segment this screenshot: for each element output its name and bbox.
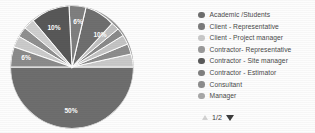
legend-item-manager[interactable]: Manager — [197, 90, 315, 102]
legend-pager: 1/2 — [202, 112, 234, 123]
legend-swatch-icon — [198, 35, 205, 42]
legend-item-client-representative[interactable]: Client - Representative — [197, 21, 315, 33]
legend-item-label: Client - Representative — [210, 21, 279, 33]
pie-label-academic-students: 50% — [64, 107, 77, 114]
legend-item-label: Contractor- Representative — [210, 44, 292, 56]
legend-item-label: Academic /Students — [210, 9, 271, 21]
pie-chart-svg: 10% 6% 10% 6% 50% — [8, 3, 138, 131]
legend-item-contractor-estimator[interactable]: Contractor - Estimator — [197, 67, 315, 79]
legend-swatch-icon — [198, 23, 205, 30]
pie-chart[interactable]: 10% 6% 10% 6% 50% — [8, 3, 138, 131]
legend-swatch-icon — [198, 93, 205, 100]
page-indicator: 1/2 — [212, 113, 222, 123]
legend-swatch-icon — [198, 58, 205, 65]
legend-item-consultant[interactable]: Consultant — [197, 79, 315, 91]
legend-swatch-icon — [198, 12, 205, 19]
pie-label-manager: 10% — [93, 31, 106, 38]
pie-chart-widget: 10% 6% 10% 6% 50% Academic /Students Cli… — [0, 0, 315, 133]
legend-item-label: Client - Project manager — [210, 32, 284, 44]
chart-legend: Academic /Students Client - Representati… — [197, 9, 315, 102]
triangle-up-icon[interactable] — [202, 115, 208, 120]
pie-slice-academic-students[interactable] — [11, 67, 134, 129]
legend-swatch-icon — [198, 46, 205, 53]
legend-item-contractor-site-manager[interactable]: Contractor - Site manager — [197, 55, 315, 67]
pie-label-contractor-site-manager: 10% — [47, 24, 60, 31]
legend-item-academic-students[interactable]: Academic /Students — [197, 9, 315, 21]
triangle-down-icon[interactable] — [226, 115, 234, 121]
legend-swatch-icon — [198, 81, 205, 88]
legend-item-label: Contractor - Estimator — [210, 67, 277, 79]
pie-label-consultant: 6% — [73, 18, 83, 25]
legend-item-contractor-representative[interactable]: Contractor- Representative — [197, 44, 315, 56]
legend-item-client-project-manager[interactable]: Client - Project manager — [197, 32, 315, 44]
legend-swatch-icon — [198, 70, 205, 77]
legend-item-label: Manager — [210, 90, 237, 102]
pie-label-contractor-estimator: 6% — [21, 54, 31, 61]
legend-item-label: Consultant — [210, 79, 243, 91]
legend-item-label: Contractor - Site manager — [210, 55, 288, 67]
